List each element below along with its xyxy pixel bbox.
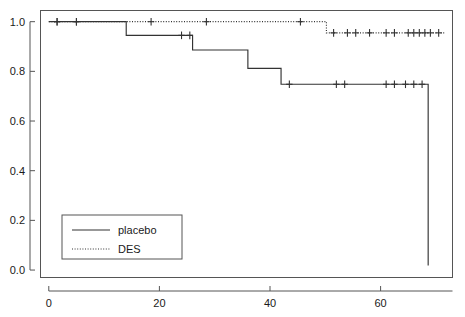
y-axis-tick-label: 0.8 <box>10 65 25 77</box>
x-axis-tick-label: 20 <box>153 297 165 309</box>
chart-legend: placeboDES <box>62 215 182 259</box>
y-axis-tick-label: 0.0 <box>10 264 25 276</box>
x-axis-tick-label: 40 <box>264 297 276 309</box>
x-axis-tick-label: 60 <box>374 297 386 309</box>
legend-label-des: DES <box>118 243 141 255</box>
y-axis-tick-label: 1.0 <box>10 16 25 28</box>
y-axis-tick-label: 0.6 <box>10 115 25 127</box>
chart-background <box>0 0 465 317</box>
survival-plot-figure: 0204060 0.00.20.40.60.81.0 placeboDES <box>0 0 465 317</box>
y-axis-tick-label: 0.4 <box>10 165 25 177</box>
legend-label-placebo: placebo <box>118 224 157 236</box>
kaplan-meier-chart: 0204060 0.00.20.40.60.81.0 placeboDES <box>0 0 465 317</box>
x-axis-tick-label: 0 <box>46 297 52 309</box>
y-axis-tick-label: 0.2 <box>10 214 25 226</box>
